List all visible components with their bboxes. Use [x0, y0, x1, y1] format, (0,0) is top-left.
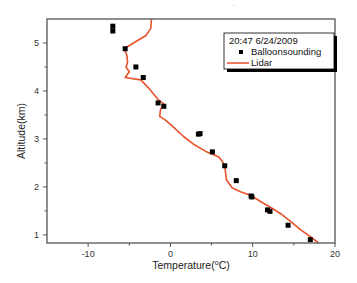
balloon-point: [286, 223, 291, 228]
legend: 20:47 6/24/2009 Balloonsounding Lidar: [224, 33, 337, 72]
balloon-point: [133, 64, 138, 69]
y-tick-label: 5: [34, 38, 39, 48]
y-tick-label: 4: [34, 86, 39, 96]
y-tick-label: 3: [34, 134, 39, 144]
x-tick-label: 20: [330, 249, 340, 259]
balloon-point: [161, 104, 166, 109]
temperature-altitude-chart: -100102012345 20:47 6/24/2009 Balloonsou…: [0, 0, 357, 283]
x-tick-label: -10: [82, 249, 95, 259]
legend-title: 20:47 6/24/2009: [229, 35, 298, 46]
balloon-point: [156, 100, 161, 105]
x-axis-title-prefix: Temperature(: [152, 259, 215, 271]
legend-label-balloonsounding: Balloonsounding: [251, 46, 321, 57]
y-tick-label: 2: [34, 182, 39, 192]
balloon-point: [267, 209, 272, 214]
balloon-point: [222, 163, 227, 168]
y-tick-label: 1: [34, 230, 39, 240]
balloon-point: [234, 178, 239, 183]
balloon-point: [110, 28, 115, 33]
balloon-point: [141, 75, 146, 80]
balloon-point: [110, 24, 115, 29]
x-tick-label: 0: [168, 249, 173, 259]
x-axis-title-suffix: C): [219, 259, 230, 271]
balloon-point: [210, 149, 215, 154]
balloon-point: [123, 46, 128, 51]
legend-label-lidar: Lidar: [251, 57, 272, 68]
balloon-point: [198, 131, 203, 136]
y-axis-title: Altitude(km): [15, 103, 27, 159]
balloon-point: [249, 194, 254, 199]
x-tick-label: 10: [248, 249, 258, 259]
x-axis-title: Temperature(oC): [152, 259, 229, 271]
top-mark: .: [233, 0, 235, 8]
balloon-legend-marker: [239, 50, 243, 54]
balloon-point: [308, 237, 313, 242]
